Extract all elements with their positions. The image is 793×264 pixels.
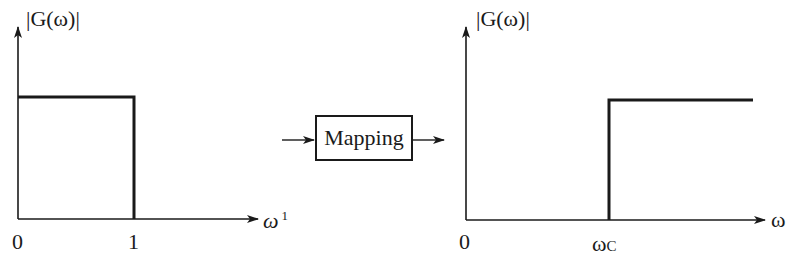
right-tick-label: ωC xyxy=(592,233,617,255)
left-chart xyxy=(18,27,258,219)
left-y-axis-label: |G(ω)| xyxy=(26,8,80,30)
left-tick-label: 1 xyxy=(128,231,139,253)
right-y-axis-label: |G(ω)| xyxy=(476,8,530,30)
left-ylabel-text: |G(ω)| xyxy=(26,6,80,31)
mapping-label: Mapping xyxy=(324,125,403,151)
left-response-curve xyxy=(18,97,134,219)
left-origin-label: 0 xyxy=(12,231,23,253)
mapping-block: Mapping xyxy=(315,115,413,161)
left-x-axis-label: ω1 xyxy=(263,209,288,232)
right-origin-label: 0 xyxy=(459,231,470,253)
right-chart xyxy=(466,27,765,220)
right-response-curve xyxy=(609,100,753,220)
right-x-axis-label: ω xyxy=(771,209,785,231)
right-ylabel-text: |G(ω)| xyxy=(476,6,530,31)
